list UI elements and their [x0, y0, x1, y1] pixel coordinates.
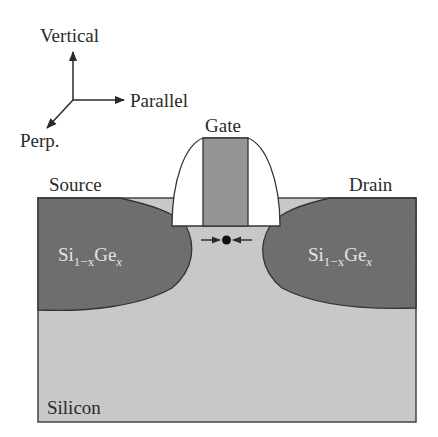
carrier-dot-icon	[222, 236, 231, 245]
mosfet-diagram: Vertical Parallel Perp. Gate Source Drai…	[0, 0, 438, 437]
sige-source-mid: Ge	[94, 244, 116, 265]
perp-arrow-icon	[47, 100, 73, 128]
sige-source-sub2: x	[116, 254, 122, 269]
gate-electrode	[203, 138, 248, 226]
drain-label: Drain	[349, 175, 392, 194]
sige-drain-sub2: x	[366, 254, 372, 269]
sige-drain-label: Si1−xGex	[308, 245, 372, 268]
coordinate-axes	[47, 52, 124, 128]
sige-source-sub1: 1−x	[74, 254, 94, 269]
axis-label-vertical: Vertical	[40, 26, 99, 45]
source-label: Source	[49, 175, 102, 194]
sige-drain-sub1: 1−x	[324, 254, 344, 269]
sige-drain-base: Si	[308, 244, 324, 265]
sige-source-label: Si1−xGex	[58, 245, 122, 268]
silicon-label: Silicon	[47, 398, 101, 417]
diagram-canvas	[0, 0, 438, 437]
axis-label-perp: Perp.	[20, 131, 60, 150]
gate-label: Gate	[205, 116, 241, 135]
sige-source-base: Si	[58, 244, 74, 265]
axis-label-parallel: Parallel	[130, 91, 188, 110]
sige-drain-mid: Ge	[344, 244, 366, 265]
